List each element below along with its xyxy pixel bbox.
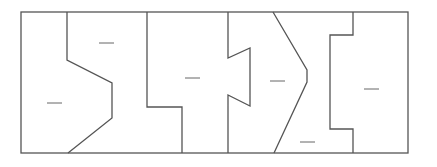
divider-3-line: [228, 12, 250, 153]
divider-5-line: [330, 12, 353, 153]
divider-2-line: [147, 12, 182, 153]
region-marks: [47, 43, 379, 142]
outer-boundary: [21, 12, 408, 153]
divider-4-line: [273, 12, 307, 153]
partition-diagram: [0, 0, 437, 167]
divider-1-line: [67, 12, 112, 153]
divider-lines: [67, 12, 353, 153]
